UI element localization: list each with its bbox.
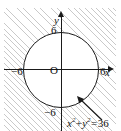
equation-rhs: 36: [97, 117, 109, 129]
circle-equation-figure: y x 6 −6 −6 6 O x2+y2=36: [4, 8, 116, 131]
y-tick-label-6: 6: [51, 24, 57, 36]
y-tick-label-neg6: −6: [44, 106, 56, 118]
top-text-bleed: —— —— —— ——: [0, 0, 121, 7]
x-tick-label-6: 6: [100, 65, 106, 77]
top-bleed-text: —— —— —— ——: [1, 0, 102, 4]
circle-equation-annotation: x2+y2=36: [67, 116, 109, 129]
origin-label: O: [50, 64, 58, 76]
x-tick-label-neg6: −6: [11, 65, 23, 77]
